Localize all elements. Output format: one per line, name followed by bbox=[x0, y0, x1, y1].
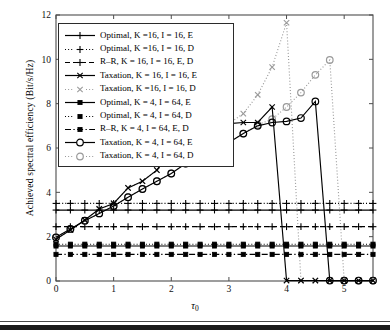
legend-label-8: Taxation, K = 4, I = 64, E bbox=[97, 137, 193, 147]
series-5-marker bbox=[97, 244, 101, 248]
series-5-marker bbox=[227, 244, 231, 248]
x-tick-label: 3 bbox=[227, 284, 232, 294]
legend-swatch-plus-icon bbox=[63, 55, 97, 68]
y-tick-label: 0 bbox=[46, 276, 51, 286]
series-5-marker bbox=[140, 244, 144, 248]
series-5-marker bbox=[241, 244, 245, 248]
chart-legend: Optimal, K =16, I = 16, EOptimal, K =16,… bbox=[58, 23, 234, 167]
legend-label-3: Taxation, K = 16, I = 16, E bbox=[97, 70, 197, 80]
y-tick-label: 2 bbox=[46, 232, 51, 242]
series-5-marker bbox=[126, 244, 130, 248]
legend-swatch-plus-icon bbox=[63, 28, 97, 41]
series-7-marker bbox=[371, 252, 375, 256]
legend-item-3: Taxation, K = 16, I = 16, E bbox=[63, 68, 228, 81]
legend-item-8: Taxation, K = 4, I = 64, E bbox=[63, 135, 228, 148]
series-5-marker bbox=[54, 244, 58, 248]
legend-label-0: Optimal, K =16, I = 16, E bbox=[97, 30, 193, 40]
legend-label-6: Optimal, K = 4, I = 64, D bbox=[97, 110, 192, 120]
legend-item-2: R–R, K = 16, I = 16, E, D bbox=[63, 55, 228, 68]
legend-swatch-circle-icon bbox=[63, 135, 97, 148]
figure-container: 012345024681012 Achieved spectral effici… bbox=[0, 0, 390, 330]
legend-swatch-square-icon bbox=[63, 109, 97, 122]
legend-label-7: R–R, K = 4, I = 64, E, D bbox=[97, 123, 189, 133]
series-5-marker bbox=[328, 244, 332, 248]
series-5-marker bbox=[342, 244, 346, 248]
y-tick-label: 4 bbox=[46, 188, 51, 198]
y-axis-label: Achieved spectral efficiency (Bit/s/Hz) bbox=[25, 22, 35, 254]
series-7-marker bbox=[270, 252, 274, 256]
legend-label-4: Taxation, K =16, I = 16, D bbox=[97, 83, 196, 93]
series-5-marker bbox=[284, 244, 288, 248]
series-7-marker bbox=[184, 252, 188, 256]
series-7-marker bbox=[112, 252, 116, 256]
series-5-marker bbox=[270, 244, 274, 248]
series-7-marker bbox=[68, 252, 72, 256]
series-5-marker bbox=[212, 244, 216, 248]
legend-swatch-circle-icon bbox=[63, 149, 97, 162]
series-7-marker bbox=[284, 252, 288, 256]
series-7-marker bbox=[83, 252, 87, 256]
x-tick-label: 1 bbox=[111, 284, 116, 294]
legend-swatch-plus-icon bbox=[63, 42, 97, 55]
y-tick-label: 12 bbox=[42, 10, 52, 20]
page-rule-thin bbox=[0, 321, 390, 322]
legend-item-1: Optimal, K =16, I = 16, D bbox=[63, 41, 228, 54]
legend-swatch-cross-icon bbox=[63, 68, 97, 81]
legend-item-9: Taxation, K = 4, I = 64, D bbox=[63, 149, 228, 162]
y-tick-label: 8 bbox=[46, 99, 51, 109]
series-7-marker bbox=[169, 252, 173, 256]
legend-label-9: Taxation, K = 4, I = 64, D bbox=[97, 150, 194, 160]
page-rule-thick bbox=[0, 325, 390, 330]
legend-label-1: Optimal, K =16, I = 16, D bbox=[97, 43, 194, 53]
legend-item-5: Optimal, K = 4, I = 64, E bbox=[63, 95, 228, 108]
series-5-marker bbox=[198, 244, 202, 248]
y-tick-label: 10 bbox=[42, 55, 52, 65]
series-5-marker bbox=[356, 244, 360, 248]
x-tick-label: 5 bbox=[342, 284, 347, 294]
series-5-marker bbox=[313, 244, 317, 248]
legend-label-5: Optimal, K = 4, I = 64, E bbox=[97, 97, 191, 107]
x-tick-label: 2 bbox=[169, 284, 174, 294]
series-7-marker bbox=[299, 252, 303, 256]
series-7-marker bbox=[126, 252, 130, 256]
series-7-marker bbox=[97, 252, 101, 256]
series-5-marker bbox=[184, 244, 188, 248]
series-5-marker bbox=[83, 244, 87, 248]
legend-item-0: Optimal, K =16, I = 16, E bbox=[63, 28, 228, 41]
legend-swatch-square-icon bbox=[63, 95, 97, 108]
x-tick-label: 0 bbox=[54, 284, 59, 294]
legend-item-4: Taxation, K =16, I = 16, D bbox=[63, 82, 228, 95]
series-7-marker bbox=[256, 252, 260, 256]
series-9-marker bbox=[312, 72, 319, 79]
series-7-marker bbox=[356, 252, 360, 256]
series-7-marker bbox=[140, 252, 144, 256]
series-5-marker bbox=[299, 244, 303, 248]
y-tick-label: 6 bbox=[46, 143, 51, 153]
legend-item-6: Optimal, K = 4, I = 64, D bbox=[63, 108, 228, 121]
x-axis-label-subscript: 0 bbox=[195, 304, 199, 313]
series-5-marker bbox=[68, 244, 72, 248]
series-7-marker bbox=[313, 252, 317, 256]
series-5-marker bbox=[112, 244, 116, 248]
series-5-marker bbox=[169, 244, 173, 248]
series-7-marker bbox=[241, 252, 245, 256]
series-9-marker bbox=[283, 104, 290, 111]
series-7-marker bbox=[342, 252, 346, 256]
legend-swatch-square-icon bbox=[63, 122, 97, 135]
x-axis-label: τ0 bbox=[0, 300, 390, 313]
series-5-marker bbox=[155, 244, 159, 248]
legend-item-7: R–R, K = 4, I = 64, E, D bbox=[63, 122, 228, 135]
series-7-marker bbox=[198, 252, 202, 256]
series-7-marker bbox=[54, 252, 58, 256]
legend-swatch-cross-icon bbox=[63, 82, 97, 95]
series-7-marker bbox=[227, 252, 231, 256]
x-tick-label: 4 bbox=[284, 284, 289, 294]
series-7-marker bbox=[155, 252, 159, 256]
series-5-marker bbox=[256, 244, 260, 248]
series-7-marker bbox=[212, 252, 216, 256]
series-5-marker bbox=[371, 244, 375, 248]
legend-label-2: R–R, K = 16, I = 16, E, D bbox=[97, 56, 193, 66]
